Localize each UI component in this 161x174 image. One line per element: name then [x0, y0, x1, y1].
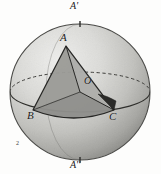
sphere-figure: A' A O B C A'' 2 [0, 0, 161, 174]
label-vertex-b: B [27, 110, 34, 121]
label-vertex-a: A [60, 32, 67, 43]
label-pole-top: A' [70, 1, 78, 11]
label-center-o: O [84, 76, 91, 86]
label-pole-bottom: A'' [70, 160, 80, 170]
label-figure-mark: 2 [16, 140, 19, 146]
sphere-diagram-svg [0, 0, 161, 174]
label-vertex-c: C [109, 111, 116, 122]
